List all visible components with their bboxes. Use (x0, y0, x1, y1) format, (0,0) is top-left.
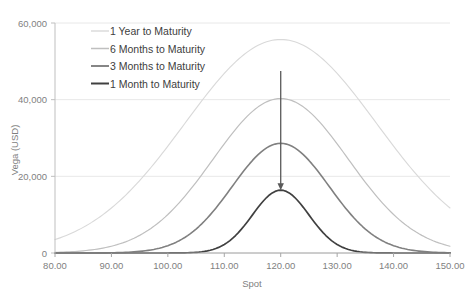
y-tick-label-0: 0 (42, 248, 47, 259)
x-tick-label-80: 80.00 (43, 260, 67, 271)
x-tick-label-110: 110.00 (210, 260, 238, 271)
legend-label-0: 1 Year to Maturity (110, 25, 192, 37)
x-axis-title: Spot (242, 278, 262, 289)
y-axis-title: Vega (USD) (9, 125, 20, 176)
x-tick-label-140: 140.00 (379, 260, 408, 271)
y-tick-label-40000: 40,000 (18, 94, 47, 105)
x-tick-label-130: 130.00 (323, 260, 352, 271)
x-tick-label-120: 120.00 (266, 260, 295, 271)
y-tick-label-20000: 20,000 (18, 171, 47, 182)
y-tick-label-60000: 60,000 (18, 18, 47, 29)
legend-label-3: 1 Month to Maturity (110, 78, 201, 90)
chart-background (0, 0, 473, 294)
vega-vs-spot-line-chart: 020,00040,00060,000 80.0090.00100.00110.… (0, 0, 473, 294)
x-tick-label-100: 100.00 (153, 260, 182, 271)
x-tick-label-90: 90.00 (100, 260, 124, 271)
legend-label-1: 6 Months to Maturity (110, 43, 206, 55)
chart-container: 020,00040,00060,000 80.0090.00100.00110.… (0, 0, 473, 294)
x-tick-label-150: 150.00 (435, 260, 464, 271)
legend-label-2: 3 Months to Maturity (110, 60, 206, 72)
